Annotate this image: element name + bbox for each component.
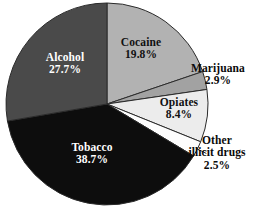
pie-label-tobacco-value: 38.7% xyxy=(48,153,136,165)
pie-label-marijuana-name: Marijuana xyxy=(182,62,254,74)
pie-label-other-value: 2.5% xyxy=(180,159,254,171)
pie-label-cocaine: Cocaine 19.8% xyxy=(104,36,178,61)
pie-label-opiates: Opiates 8.4% xyxy=(146,96,212,121)
pie-label-opiates-name: Opiates xyxy=(146,96,212,108)
pie-label-alcohol-value: 27.7% xyxy=(27,63,103,75)
pie-chart: Cocaine 19.8% Alcohol 27.7% Tobacco 38.7… xyxy=(0,0,254,214)
pie-label-alcohol-name: Alcohol xyxy=(27,51,103,63)
pie-label-other-name: Other xyxy=(180,134,254,146)
pie-label-alcohol: Alcohol 27.7% xyxy=(27,51,103,76)
pie-chart-canvas xyxy=(0,0,254,214)
pie-label-tobacco-name: Tobacco xyxy=(48,141,136,153)
pie-label-marijuana-value: 2.9% xyxy=(182,74,254,86)
pie-label-other-illicit-drugs: Other illicit drugs 2.5% xyxy=(180,134,254,171)
pie-label-other-name-line2: illicit drugs xyxy=(180,146,254,158)
pie-label-tobacco: Tobacco 38.7% xyxy=(48,141,136,166)
pie-label-cocaine-value: 19.8% xyxy=(104,48,178,60)
pie-label-cocaine-name: Cocaine xyxy=(104,36,178,48)
pie-label-marijuana: Marijuana 2.9% xyxy=(182,62,254,87)
pie-label-opiates-value: 8.4% xyxy=(146,108,212,120)
